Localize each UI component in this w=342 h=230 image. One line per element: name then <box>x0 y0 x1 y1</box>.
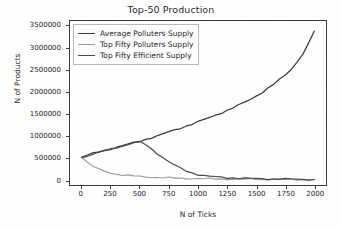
x-tick-mark <box>198 186 199 189</box>
x-axis-label: N of Ticks <box>69 210 327 219</box>
legend-item: Top Fifty Efficient Supply <box>78 50 193 61</box>
legend-label: Average Polluters Supply <box>100 28 193 39</box>
chart-figure: Top-50 Production 0500000100000015000002… <box>0 0 342 230</box>
chart-legend: Average Polluters SupplyTop Fifty Pollut… <box>73 24 199 65</box>
legend-line-icon <box>78 33 95 34</box>
x-tick-mark <box>139 186 140 189</box>
x-tick-mark <box>315 186 316 189</box>
legend-label: Top Fifty Polluters Supply <box>100 39 193 50</box>
x-tick-mark <box>286 186 287 189</box>
x-tick-label: 250 <box>103 190 116 198</box>
x-tick-label: 1750 <box>277 190 295 198</box>
y-axis-label: N of Products <box>13 39 22 119</box>
x-tick-label: 1250 <box>218 190 236 198</box>
legend-item: Average Polluters Supply <box>78 28 193 39</box>
x-tick-label: 1000 <box>189 190 207 198</box>
x-tick-mark <box>110 186 111 189</box>
x-tick-label: 500 <box>133 190 146 198</box>
x-tick-mark <box>257 186 258 189</box>
x-tick-label: 2000 <box>306 190 324 198</box>
legend-label: Top Fifty Efficient Supply <box>100 50 192 61</box>
x-tick-label: 0 <box>78 190 82 198</box>
legend-item: Top Fifty Polluters Supply <box>78 39 193 50</box>
series-line <box>82 158 315 181</box>
x-tick-mark <box>81 186 82 189</box>
x-tick-mark <box>169 186 170 189</box>
legend-line-icon <box>78 44 95 45</box>
legend-line-icon <box>78 55 95 56</box>
x-tick-mark <box>227 186 228 189</box>
x-tick-label: 750 <box>162 190 175 198</box>
x-tick-label: 1500 <box>248 190 266 198</box>
